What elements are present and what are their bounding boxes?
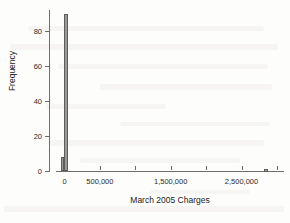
y-tick-mark [45,66,49,67]
y-tick-mark [45,171,49,172]
x-tick-mark [242,166,243,170]
x-tick-mark [277,166,278,170]
x-tick-label: 0 [62,177,66,186]
y-tick-mark [45,31,49,32]
y-axis-title: Frequency [7,26,17,116]
x-tick-mark [171,166,172,170]
x-tick-label: 1,500,000 [154,177,187,186]
histogram-bar [264,169,268,172]
histogram-screenshot: 020406080 0500,0001,500,0002,500,000 Mar… [0,0,290,223]
histogram-bar [64,14,68,172]
x-tick-mark [135,166,136,170]
y-axis-line [49,10,50,172]
x-tick-mark [206,166,207,170]
plot-area: 020406080 0500,0001,500,0002,500,000 Mar… [0,0,290,223]
x-axis-title: March 2005 Charges [56,195,284,205]
x-tick-label: 500,000 [86,177,113,186]
x-tick-label: 2,500,000 [225,177,258,186]
y-tick-mark [45,101,49,102]
y-tick-label: 20 [0,132,42,141]
y-tick-mark [45,136,49,137]
y-tick-label: 0 [0,167,42,176]
x-axis-line [56,171,284,172]
x-tick-mark [100,166,101,170]
